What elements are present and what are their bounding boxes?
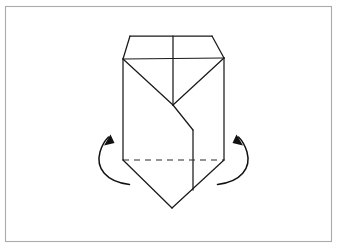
fold-diagram-svg <box>0 0 344 251</box>
diagram-root <box>0 0 344 251</box>
diagram-background <box>0 0 344 251</box>
